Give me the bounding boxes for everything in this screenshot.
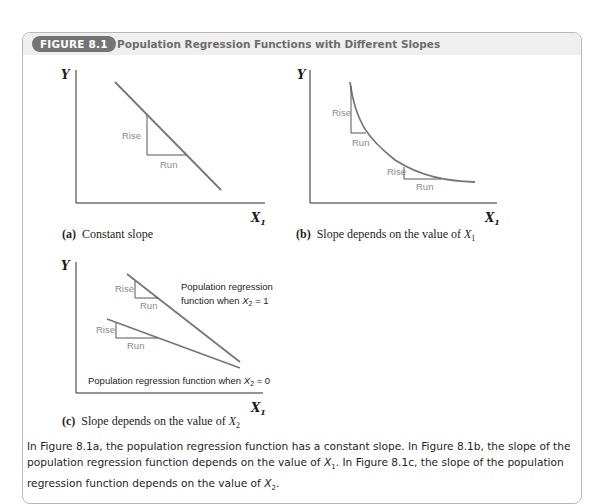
panel-c-tag: (c)	[62, 414, 75, 428]
panel-b-run-label-2: Run	[416, 181, 433, 192]
panel-c-x-label: X1	[250, 401, 266, 417]
panel-c-lower-rise-label: Rise	[96, 324, 115, 335]
panel-c-caption-text: Slope depends on the value of	[81, 414, 228, 428]
panel-b-y-label: Y	[297, 68, 307, 82]
panel-b-rise-label-1: Rise	[332, 107, 351, 118]
panel-a-y-label: Y	[61, 68, 71, 82]
panel-c-caption-var: X	[229, 414, 236, 428]
panel-c-upper-line-label-1: Population regression	[181, 281, 273, 292]
panel-b-x-label: X1	[484, 211, 500, 227]
panel-b-rise-label-2: Rise	[387, 166, 406, 177]
panel-c-caption-sub: 2	[236, 421, 240, 430]
panel-c-y-label: Y	[61, 259, 71, 273]
panel-c-caption: (c)Slope depends on the value of X2	[62, 414, 240, 430]
panel-a-x-label: X1	[250, 211, 266, 227]
description-part-3: .	[276, 477, 279, 489]
panel-a: Y X1 Rise Run	[61, 68, 266, 227]
panel-b-regression-curve	[350, 82, 475, 182]
panel-c-lower-line-label: Population regression function when X2 =…	[88, 375, 270, 387]
panel-c: Y X1 Rise Run Rise Run Population regres…	[61, 259, 273, 417]
panel-c-upper-rise-label: Rise	[115, 283, 134, 294]
panel-b-caption-sub: 1	[471, 234, 475, 243]
panel-b-run-label-1: Run	[352, 137, 369, 148]
panel-c-lower-run-label: Run	[127, 340, 144, 351]
panel-a-caption: (a)Constant slope	[62, 227, 153, 242]
panel-c-upper-line-label-2: function when X2 = 1	[181, 295, 269, 307]
panel-b-tag: (b)	[296, 227, 311, 241]
panel-a-tag: (a)	[62, 227, 76, 241]
panel-b-caption: (b)Slope depends on the value of X1	[296, 227, 475, 243]
panel-a-run-label: Run	[160, 159, 177, 170]
figure-description: In Figure 8.1a, the population regressio…	[27, 438, 575, 496]
panel-a-rise-label: Rise	[122, 130, 141, 141]
panel-a-caption-text: Constant slope	[82, 227, 153, 241]
panel-b: Y X1 Rise Run Rise Run	[297, 68, 500, 227]
panel-b-caption-text: Slope depends on the value of	[317, 227, 464, 241]
panel-c-upper-run-label: Run	[140, 300, 157, 311]
